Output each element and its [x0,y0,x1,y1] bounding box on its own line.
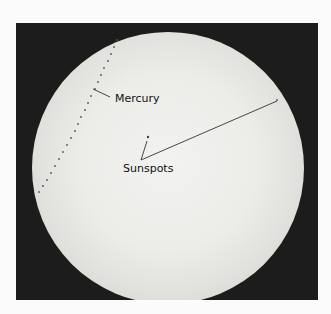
mercury-label: Mercury [115,92,160,105]
sunspot-pointer-line-1 [141,141,147,160]
annotation-overlay [0,0,331,314]
sunspot-center [147,136,149,138]
sunspots-label: Sunspots [123,162,173,175]
mercury-pointer-line [93,89,110,97]
sunspot-limb [276,99,278,101]
sunspot-pointer-line-2 [141,101,277,160]
mercury-transit-track [38,39,118,193]
